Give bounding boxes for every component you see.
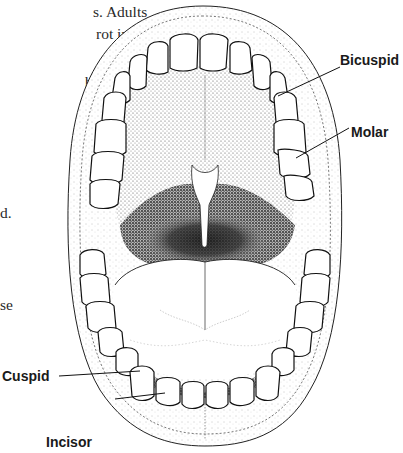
lower-lateral-incisor-left <box>156 378 180 406</box>
upper-central-incisor-right <box>200 34 228 71</box>
upper-molar-left-3 <box>90 180 120 209</box>
lower-central-incisor-left <box>182 382 204 409</box>
lower-lateral-incisor-right <box>230 378 254 406</box>
lower-cuspid-right <box>256 366 280 401</box>
tongue <box>112 259 297 378</box>
upper-molar-right-3 <box>284 175 314 200</box>
label-bicuspid: Bicuspid <box>340 53 399 67</box>
upper-molar-right-2 <box>278 149 310 178</box>
lower-central-incisor-right <box>206 382 228 409</box>
upper-cuspid-right <box>252 55 272 90</box>
upper-central-incisor-left <box>170 34 198 71</box>
label-cuspid: Cuspid <box>2 369 49 383</box>
label-molar: Molar <box>351 125 388 139</box>
upper-lateral-incisor-left <box>146 42 168 74</box>
label-incisor: Incisor <box>46 435 92 449</box>
upper-cuspid-left <box>128 55 147 90</box>
upper-lateral-incisor-right <box>230 42 252 74</box>
